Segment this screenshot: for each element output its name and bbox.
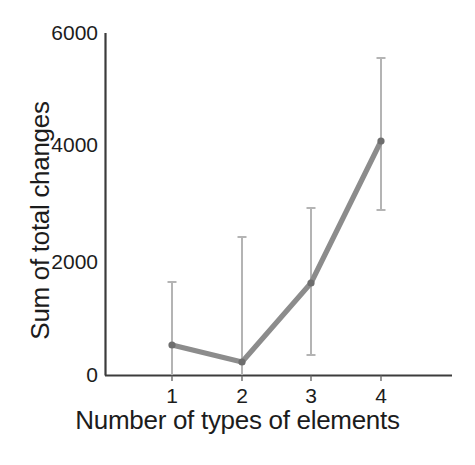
data-point-marker-2 (238, 358, 245, 365)
y-tick-label-6000: 6000 (10, 21, 98, 45)
data-line-series (172, 141, 381, 362)
x-axis-title: Number of types of elements (0, 405, 475, 436)
y-axis-title: Sum of total changes (25, 71, 56, 371)
data-point-marker-4 (377, 137, 384, 144)
data-point-marker-3 (307, 279, 314, 286)
chart-figure: 6000 4000 2000 0 1 2 3 4 Number of types… (0, 0, 475, 465)
data-point-marker-1 (168, 341, 175, 348)
error-bar-group (168, 58, 386, 375)
